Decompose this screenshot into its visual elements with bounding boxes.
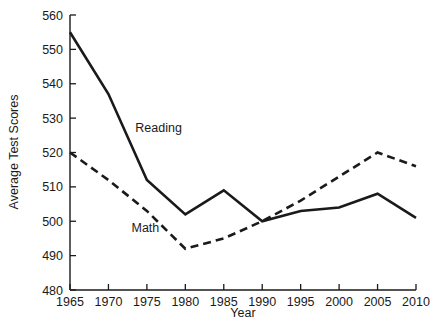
y-tick-label: 560 xyxy=(42,9,63,23)
series-label-reading: Reading xyxy=(135,121,182,135)
series-label-math: Math xyxy=(132,221,160,235)
x-axis-title: Year xyxy=(230,306,255,320)
x-tick-label: 2000 xyxy=(325,295,353,309)
y-tick-label: 500 xyxy=(42,215,63,229)
y-tick-label: 520 xyxy=(42,146,63,160)
x-tick-label: 1970 xyxy=(95,295,123,309)
y-axis-title: Average Test Scores xyxy=(7,95,21,210)
y-tick-label: 510 xyxy=(42,180,63,194)
chart-canvas: 480490500510520530540550560 196519701975… xyxy=(0,0,437,324)
y-tick-label: 550 xyxy=(42,43,63,57)
x-tick-label: 1980 xyxy=(171,295,199,309)
x-tick-label: 1965 xyxy=(56,295,84,309)
line-chart: 480490500510520530540550560 196519701975… xyxy=(0,0,437,324)
x-tick-label: 1995 xyxy=(287,295,315,309)
y-tick-label: 540 xyxy=(42,77,63,91)
x-tick-label: 2010 xyxy=(402,295,430,309)
x-tick-label: 2005 xyxy=(364,295,392,309)
chart-background xyxy=(0,0,437,324)
y-tick-label: 530 xyxy=(42,112,63,126)
x-tick-label: 1975 xyxy=(133,295,161,309)
y-axis-tick-labels: 480490500510520530540550560 xyxy=(42,9,63,298)
y-tick-label: 490 xyxy=(42,249,63,263)
